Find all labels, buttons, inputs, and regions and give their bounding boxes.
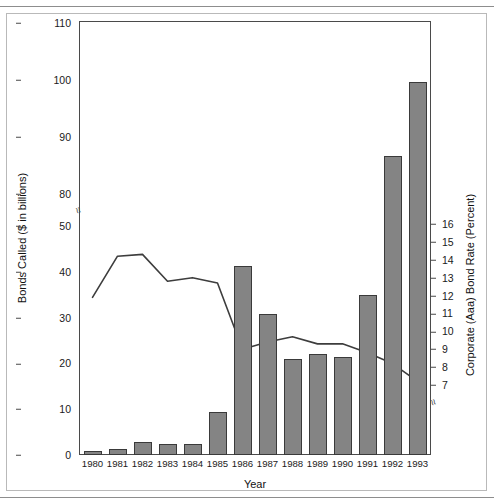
bar-1988 (284, 359, 302, 455)
y-tick-mark-left (16, 318, 21, 319)
y-tick-mark-left (16, 80, 21, 81)
bar-1993 (409, 82, 427, 455)
x-axis-tick-1988: 1988 (282, 458, 303, 469)
y-tick-mark-right (430, 331, 436, 332)
y-tick-mark-right (430, 313, 436, 314)
y-axis-tick-left-80: 80 (16, 189, 80, 200)
chart-figure: Bonds Called ($ in billions) Corporate (… (0, 0, 494, 504)
y-axis-tick-left-100: 100 (16, 75, 80, 86)
x-axis-tick-1992: 1992 (382, 458, 403, 469)
x-axis-tick-1991: 1991 (357, 458, 378, 469)
x-axis-tick-1985: 1985 (207, 458, 228, 469)
x-axis-tick-1990: 1990 (332, 458, 353, 469)
x-axis-tick-1984: 1984 (182, 458, 203, 469)
y-tick-mark-right (430, 385, 436, 386)
x-axis-tick-1986: 1986 (232, 458, 253, 469)
x-axis-tick-1989: 1989 (307, 458, 328, 469)
y-tick-mark-left (16, 272, 21, 273)
x-axis-tick-1987: 1987 (257, 458, 278, 469)
y-axis-tick-left-10: 10 (16, 404, 80, 415)
x-axis-label: Year (79, 478, 431, 490)
y-axis-tick-left-50: 50 (16, 221, 80, 232)
y-axis-tick-right-9: 9 (430, 344, 476, 355)
y-axis-tick-right-12: 12 (430, 290, 476, 301)
bar-1980 (84, 451, 102, 455)
x-axis-tick-1982: 1982 (132, 458, 153, 469)
x-axis-tick-1993: 1993 (407, 458, 428, 469)
y-tick-mark-right (430, 278, 436, 279)
y-tick-mark-right (430, 260, 436, 261)
bar-1989 (309, 354, 327, 455)
y-tick-mark-right (430, 296, 436, 297)
bar-1992 (384, 156, 402, 455)
y-axis-tick-left-40: 40 (16, 267, 80, 278)
y-axis-label-right: Corporate (Aaa) Bond Rate (Percent) (462, 120, 478, 450)
y-tick-mark-left (16, 194, 21, 195)
y-axis-label-left: Bonds Called ($ in billions) (14, 21, 30, 455)
y-axis-tick-left-30: 30 (16, 312, 80, 323)
bar-1984 (184, 444, 202, 455)
y-axis-tick-left-90: 90 (16, 132, 80, 143)
y-axis-tick-left-0: 0 (16, 450, 80, 461)
y-tick-mark-right (430, 242, 436, 243)
plot-area: 010203040508090100110≈78910111213141516≈… (80, 22, 430, 455)
figure-bottom-rule (0, 497, 494, 498)
bond-rate-line-series (80, 22, 430, 455)
bar-1986 (234, 266, 252, 455)
y-axis-tick-right-8: 8 (430, 362, 476, 373)
y-tick-mark-left (16, 23, 21, 24)
bar-1983 (159, 444, 177, 455)
x-axis-tick-1980: 1980 (82, 458, 103, 469)
y-tick-mark-left (16, 363, 21, 364)
y-tick-mark-right (430, 367, 436, 368)
y-axis-tick-right-10: 10 (430, 326, 476, 337)
bar-1990 (334, 357, 352, 455)
y-axis-tick-right-14: 14 (430, 255, 476, 266)
bar-1981 (109, 449, 127, 455)
y-axis-tick-right-7: 7 (430, 380, 476, 391)
y-axis-tick-right-15: 15 (430, 237, 476, 248)
bar-1982 (134, 442, 152, 455)
y-tick-mark-left (16, 137, 21, 138)
y-axis-tick-left-20: 20 (16, 358, 80, 369)
x-axis-tick-1983: 1983 (157, 458, 178, 469)
y-tick-mark-left (16, 226, 21, 227)
y-axis-tick-right-13: 13 (430, 272, 476, 283)
bar-1991 (359, 295, 377, 455)
y-tick-mark-left (16, 455, 21, 456)
y-axis-tick-left-110: 110 (16, 18, 80, 29)
bar-1985 (209, 412, 227, 455)
bar-1987 (259, 314, 277, 455)
y-axis-tick-right-16: 16 (430, 219, 476, 230)
y-tick-mark-right (430, 349, 436, 350)
y-axis-tick-right-11: 11 (430, 308, 476, 319)
figure-top-rule (0, 6, 494, 7)
y-tick-mark-right (430, 224, 436, 225)
x-axis-tick-1981: 1981 (107, 458, 128, 469)
y-tick-mark-left (16, 409, 21, 410)
